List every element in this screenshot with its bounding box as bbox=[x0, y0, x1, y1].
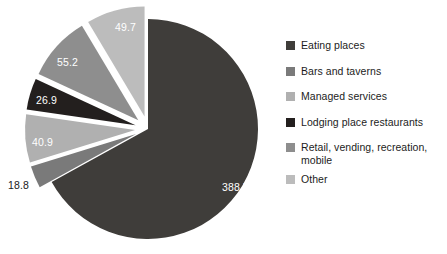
legend-item-lodging-place-restaurants[interactable]: Lodging place restaurants bbox=[286, 116, 446, 129]
legend-item-other[interactable]: Other bbox=[286, 173, 446, 186]
pie-value-label: 49.7 bbox=[115, 22, 136, 33]
legend-swatch-icon bbox=[286, 67, 295, 76]
pie-value-label: 55.2 bbox=[57, 57, 78, 68]
pie-chart-figure: 388.518.840.926.955.249.7 Eating places … bbox=[0, 0, 447, 254]
legend-item-label: Other bbox=[301, 173, 328, 186]
legend-item-eating-places[interactable]: Eating places bbox=[286, 39, 446, 52]
legend-swatch-icon bbox=[286, 41, 295, 50]
legend-swatch-icon bbox=[286, 118, 295, 127]
legend-item-label: Eating places bbox=[301, 39, 365, 52]
legend-item-label: Retail, vending, recreation, mobile bbox=[301, 141, 446, 166]
legend-item-retail-vending-recreation-mobile[interactable]: Retail, vending, recreation, mobile bbox=[286, 141, 446, 166]
legend-swatch-icon bbox=[286, 175, 295, 184]
pie-slice-group bbox=[25, 6, 258, 239]
pie-value-label: 40.9 bbox=[32, 137, 53, 148]
legend-item-label: Lodging place restaurants bbox=[301, 116, 423, 129]
legend-swatch-icon bbox=[286, 92, 295, 101]
legend-item-label: Managed services bbox=[301, 90, 387, 103]
legend-item-bars-and-taverns[interactable]: Bars and taverns bbox=[286, 65, 446, 78]
pie-value-label: 388.5 bbox=[222, 182, 249, 193]
chart-legend: Eating places Bars and taverns Managed s… bbox=[286, 39, 446, 199]
legend-item-label: Bars and taverns bbox=[301, 65, 381, 78]
pie-value-label: 26.9 bbox=[36, 95, 57, 106]
legend-item-managed-services[interactable]: Managed services bbox=[286, 90, 446, 103]
pie-plot-area: 388.518.840.926.955.249.7 bbox=[0, 0, 280, 254]
pie-svg bbox=[0, 0, 280, 254]
pie-value-label: 18.8 bbox=[8, 180, 29, 191]
legend-swatch-icon bbox=[286, 143, 295, 152]
